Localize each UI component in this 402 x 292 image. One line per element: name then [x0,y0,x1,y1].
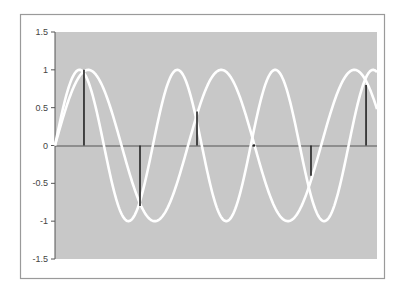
y-tick-label: 0.5 [35,103,48,113]
y-tick-label: 0 [43,141,48,151]
y-tick-label: 1.5 [35,27,48,37]
chart: 1.510.50-0.5-1-1.5 [0,0,402,292]
sample-point [253,144,256,147]
y-tick-label: -1.5 [32,254,48,264]
y-tick-label: -0.5 [32,178,48,188]
y-tick-label: -1 [40,216,48,226]
y-tick-label: 1 [43,65,48,75]
